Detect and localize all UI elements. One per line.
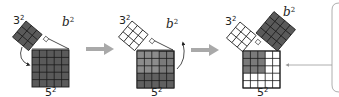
transition-arrow-2 xyxy=(191,44,219,56)
square-5-mixed xyxy=(137,51,174,88)
right-angle-marker xyxy=(43,36,49,42)
panel-2: 32 b2 52 xyxy=(119,14,185,97)
square-5-partial xyxy=(243,51,280,88)
curved-arrow-icon xyxy=(177,43,184,69)
callout-bracket xyxy=(287,3,339,92)
pythagorean-diagram: 32 b2 52 xyxy=(0,0,339,97)
label-b-squared: b2 xyxy=(166,17,178,31)
label-b-squared: b2 xyxy=(62,15,74,29)
label-5-squared: 52 xyxy=(45,86,56,97)
transition-arrow-1 xyxy=(86,43,114,55)
panel-1: 32 b2 52 xyxy=(13,14,75,97)
right-angle-marker xyxy=(149,38,155,44)
right-angle-marker xyxy=(255,39,261,45)
label-b-squared: b2 xyxy=(283,5,295,19)
square-5-dark xyxy=(32,50,69,87)
label-5-squared: 52 xyxy=(151,86,162,97)
panel-3: 32 b2 52 xyxy=(225,5,295,97)
label-3-squared: 32 xyxy=(225,15,236,28)
label-5-squared: 52 xyxy=(257,86,268,97)
